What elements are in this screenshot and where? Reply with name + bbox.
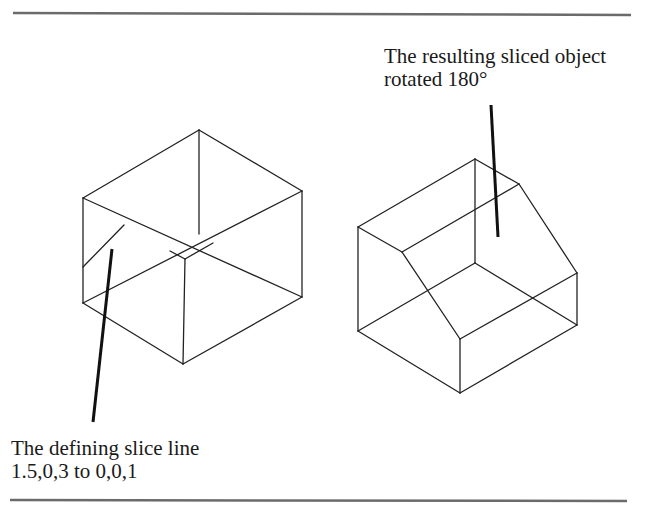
annotation-line: 1.5,0,3 to 0,0,1 bbox=[11, 460, 199, 483]
sliced-object bbox=[358, 159, 577, 393]
slice-line-annotation: The defining slice line 1.5,0,3 to 0,0,1 bbox=[11, 437, 199, 483]
original-cube bbox=[83, 130, 302, 364]
slice-line bbox=[83, 225, 124, 267]
annotation-line: The resulting sliced object bbox=[384, 45, 606, 68]
annotation-line: The defining slice line bbox=[11, 437, 199, 460]
top-rule bbox=[13, 13, 631, 15]
sliced-object-annotation: The resulting sliced object rotated 180° bbox=[384, 45, 606, 91]
left-pointer-line bbox=[93, 249, 112, 422]
bottom-rule bbox=[10, 500, 627, 501]
annotation-line: rotated 180° bbox=[384, 68, 606, 91]
